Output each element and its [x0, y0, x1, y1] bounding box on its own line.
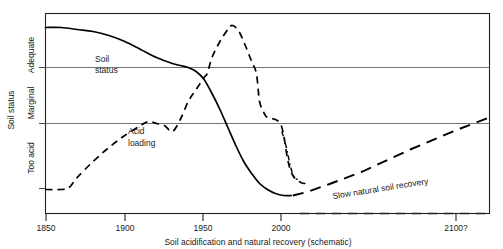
chart-background — [0, 0, 503, 249]
soil-acidification-chart: Adequate Marginal Too acid Soil status 1… — [0, 0, 503, 249]
ylabel-adequate: Adequate — [26, 37, 36, 74]
ylabel-marginal: Marginal — [26, 87, 36, 120]
annotation-soil-status-line1: Soil — [95, 54, 109, 64]
annotation-acid-loading-line1: Acid — [128, 126, 145, 136]
xlabel-2100: 2100? — [444, 223, 468, 233]
x-axis-title: Soil acidification and natural recovery … — [164, 237, 351, 247]
annotation-soil-status-line2: status — [95, 65, 118, 75]
chart-figure: Adequate Marginal Too acid Soil status 1… — [0, 0, 503, 249]
ylabel-too-acid: Too acid — [26, 142, 36, 174]
xlabel-1900: 1900 — [116, 223, 135, 233]
xlabel-1950: 1950 — [194, 223, 213, 233]
annotation-acid-loading-line2: loading — [128, 138, 156, 148]
xlabel-2000: 2000 — [272, 223, 291, 233]
xlabel-1850: 1850 — [37, 223, 56, 233]
y-axis-title: Soil status — [6, 90, 16, 129]
